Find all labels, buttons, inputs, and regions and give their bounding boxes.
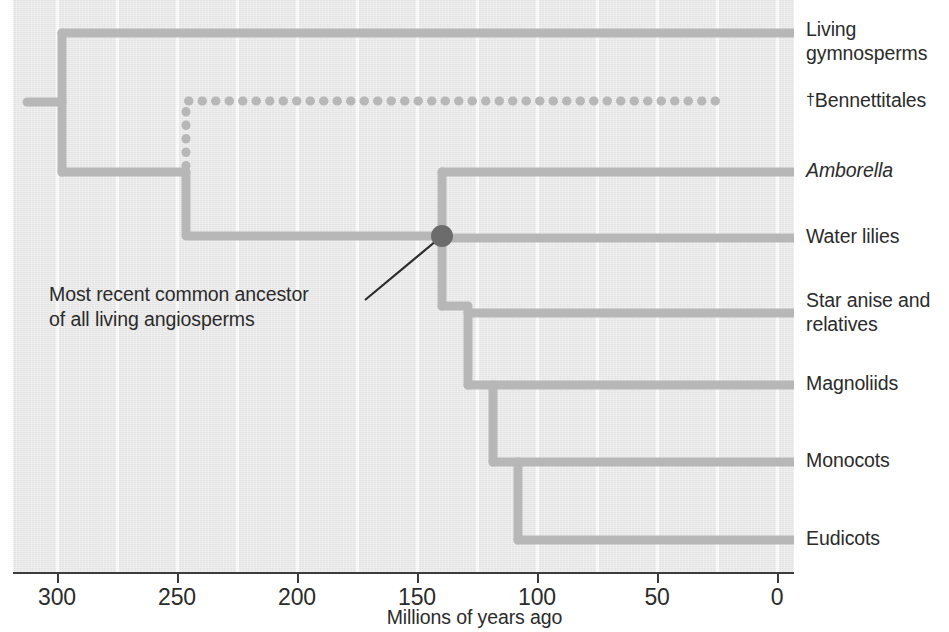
axis-tick-50 bbox=[657, 574, 659, 583]
mrca-annotation-line-1: Most recent common ancestor bbox=[49, 282, 469, 307]
taxon-label-line: †Bennettitales bbox=[806, 88, 949, 113]
taxon-label-column: Livinggymnosperms†BennettitalesAmborella… bbox=[806, 0, 949, 572]
branch-angiosperm-stem bbox=[186, 172, 442, 236]
branch-monocots-eudicots-riser bbox=[493, 462, 518, 540]
mrca-annotation-line-2: of all living angiosperms bbox=[49, 307, 469, 332]
taxon-label-living-gymnosperms: Livinggymnosperms bbox=[806, 18, 949, 65]
axis-tick-250 bbox=[177, 574, 179, 583]
axis-tick-300 bbox=[57, 574, 59, 583]
taxon-label-star-anise-and-relatives: Star anise andrelatives bbox=[806, 289, 949, 336]
taxon-label-line: Amborella bbox=[806, 159, 949, 183]
taxon-label-line: Water lilies bbox=[806, 225, 949, 249]
taxon-label-amborella: Amborella bbox=[806, 159, 949, 183]
taxon-label-line: gymnosperms bbox=[806, 42, 949, 66]
taxon-label-line: Living bbox=[806, 18, 949, 42]
taxon-label-eudicots: Eudicots bbox=[806, 527, 949, 551]
taxon-label-line: Magnoliids bbox=[806, 372, 949, 396]
taxon-label-line: Eudicots bbox=[806, 527, 949, 551]
axis-line bbox=[13, 572, 794, 574]
extinct-dagger-icon: † bbox=[806, 91, 815, 108]
branch-bennettitales-dotted bbox=[186, 101, 718, 166]
taxon-label-line: relatives bbox=[806, 313, 949, 337]
taxon-label-monocots: Monocots bbox=[806, 449, 949, 473]
axis-tick-0 bbox=[777, 574, 779, 583]
mrca-annotation: Most recent common ancestor of all livin… bbox=[49, 282, 469, 332]
axis-tick-150 bbox=[417, 574, 419, 583]
taxon-label-bennettitales: †Bennettitales bbox=[806, 88, 949, 113]
taxon-label-line: Monocots bbox=[806, 449, 949, 473]
tree-plot-area: Most recent common ancestor of all livin… bbox=[13, 0, 794, 572]
phylogenetic-tree-figure: Most recent common ancestor of all livin… bbox=[0, 0, 949, 632]
mrca-node-marker bbox=[431, 225, 453, 247]
taxon-label-magnoliids: Magnoliids bbox=[806, 372, 949, 396]
axis-title: Millions of years ago bbox=[0, 606, 949, 629]
taxon-label-line: Star anise and bbox=[806, 289, 949, 313]
axis-tick-100 bbox=[537, 574, 539, 583]
branch-post-staranise bbox=[468, 385, 493, 462]
taxon-label-water-lilies: Water lilies bbox=[806, 225, 949, 249]
axis-tick-200 bbox=[297, 574, 299, 583]
